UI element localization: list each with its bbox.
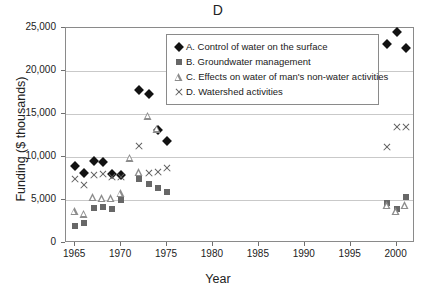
x-axis-label: Year [0, 272, 436, 286]
data-point-A [392, 27, 402, 37]
x-tick-label: 1975 [146, 248, 186, 259]
legend-label: D. Watershed activities [186, 86, 283, 97]
y-tick [61, 27, 65, 28]
legend-label: C. Effects on water of man's non-water a… [186, 71, 388, 82]
legend-key-B [173, 55, 186, 68]
chart-figure: D Funding ($ thousands) Year A. Control … [0, 0, 436, 295]
x-tick-label: 1985 [238, 248, 278, 259]
data-point-A [382, 39, 392, 49]
legend-item-C: C. Effects on water of man's non-water a… [173, 69, 372, 84]
data-point-B [155, 185, 161, 191]
data-point-D [144, 169, 153, 178]
legend-item-B: B. Groundwater management [173, 54, 372, 69]
x-tick [304, 242, 305, 246]
data-point-D [401, 122, 410, 131]
data-point-C [383, 201, 391, 209]
y-tick-label: 20,000 [0, 64, 56, 75]
gridline [66, 157, 413, 158]
data-point-A [162, 136, 172, 146]
y-tick-label: 0 [0, 236, 56, 247]
data-point-A [401, 43, 411, 53]
data-point-D [107, 172, 116, 181]
data-point-C [126, 154, 134, 162]
data-point-C [71, 207, 79, 215]
y-tick-label: 15,000 [0, 107, 56, 118]
data-point-A [79, 168, 89, 178]
data-point-D [163, 164, 172, 173]
y-tick [61, 70, 65, 71]
data-point-C [153, 125, 161, 133]
data-point-C [401, 201, 409, 209]
data-point-D [98, 170, 107, 179]
legend-item-A: A. Control of water on the surface [173, 39, 372, 54]
chart-title: D [0, 2, 436, 18]
y-tick [61, 199, 65, 200]
chart-legend: A. Control of water on the surfaceB. Gro… [166, 34, 379, 105]
data-point-C [98, 194, 106, 202]
data-point-B [146, 181, 152, 187]
x-tick-label: 1965 [54, 248, 94, 259]
legend-key-A [173, 40, 186, 53]
data-point-C [107, 194, 115, 202]
data-point-B [81, 220, 87, 226]
data-point-B [72, 223, 78, 229]
legend-item-D: D. Watershed activities [173, 84, 372, 99]
x-tick [258, 242, 259, 246]
data-point-A [70, 162, 80, 172]
data-point-A [98, 157, 108, 167]
x-tick [166, 242, 167, 246]
data-point-B [109, 206, 115, 212]
data-point-B [136, 176, 142, 182]
data-point-C [392, 207, 400, 215]
data-point-D [383, 142, 392, 151]
data-point-C [117, 189, 125, 197]
cross-marker-icon [175, 88, 184, 97]
legend-label: B. Groundwater management [186, 56, 311, 67]
y-tick [61, 242, 65, 243]
y-tick-label: 5,000 [0, 193, 56, 204]
data-point-B [91, 205, 97, 211]
legend-key-D [173, 85, 186, 98]
data-point-D [80, 181, 89, 190]
data-point-B [403, 194, 409, 200]
data-point-B [164, 189, 170, 195]
data-point-A [144, 89, 154, 99]
x-tick-label: 1990 [284, 248, 324, 259]
data-point-B [100, 204, 106, 210]
x-tick [212, 242, 213, 246]
data-point-C [80, 210, 88, 218]
triangle-marker-icon [175, 73, 183, 81]
legend-key-C [173, 70, 186, 83]
y-tick [61, 113, 65, 114]
x-tick-label: 1995 [330, 248, 370, 259]
x-tick [74, 242, 75, 246]
data-point-D [135, 141, 144, 150]
data-point-D [89, 171, 98, 180]
gridline [66, 114, 413, 115]
y-tick-label: 25,000 [0, 21, 56, 32]
data-point-B [118, 197, 124, 203]
x-tick-label: 2000 [376, 248, 416, 259]
x-tick [396, 242, 397, 246]
data-point-D [153, 167, 162, 176]
x-tick-label: 1980 [192, 248, 232, 259]
y-tick [61, 156, 65, 157]
x-tick-label: 1970 [100, 248, 140, 259]
x-tick [350, 242, 351, 246]
y-tick-label: 10,000 [0, 150, 56, 161]
data-point-D [117, 172, 126, 181]
data-point-C [135, 168, 143, 176]
data-point-D [392, 122, 401, 131]
square-marker-icon [176, 59, 182, 65]
data-point-C [89, 193, 97, 201]
data-point-C [144, 112, 152, 120]
x-tick [120, 242, 121, 246]
data-point-D [71, 175, 80, 184]
legend-label: A. Control of water on the surface [186, 41, 328, 52]
diamond-marker-icon [174, 42, 184, 52]
